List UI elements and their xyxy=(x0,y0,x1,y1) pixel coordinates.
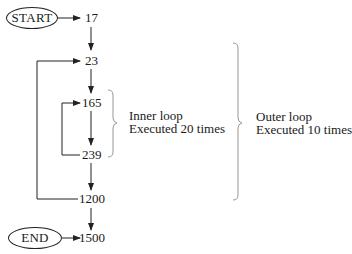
outer-loop-back-edge xyxy=(37,61,80,199)
end-terminal: END xyxy=(8,227,62,249)
inner-loop-back-edge xyxy=(62,103,80,155)
outer-loop-brace xyxy=(233,43,242,200)
start-terminal: START xyxy=(6,7,58,29)
node-1500: 1500 xyxy=(79,231,105,245)
node-239: 239 xyxy=(82,148,102,162)
node-23: 23 xyxy=(85,54,98,68)
node-165: 165 xyxy=(82,96,102,110)
outer-loop-detail: Executed 10 times xyxy=(256,123,352,137)
inner-loop-detail: Executed 20 times xyxy=(129,122,225,136)
node-1200: 1200 xyxy=(79,192,105,206)
node-17: 17 xyxy=(85,11,98,25)
inner-loop-brace xyxy=(108,90,117,157)
